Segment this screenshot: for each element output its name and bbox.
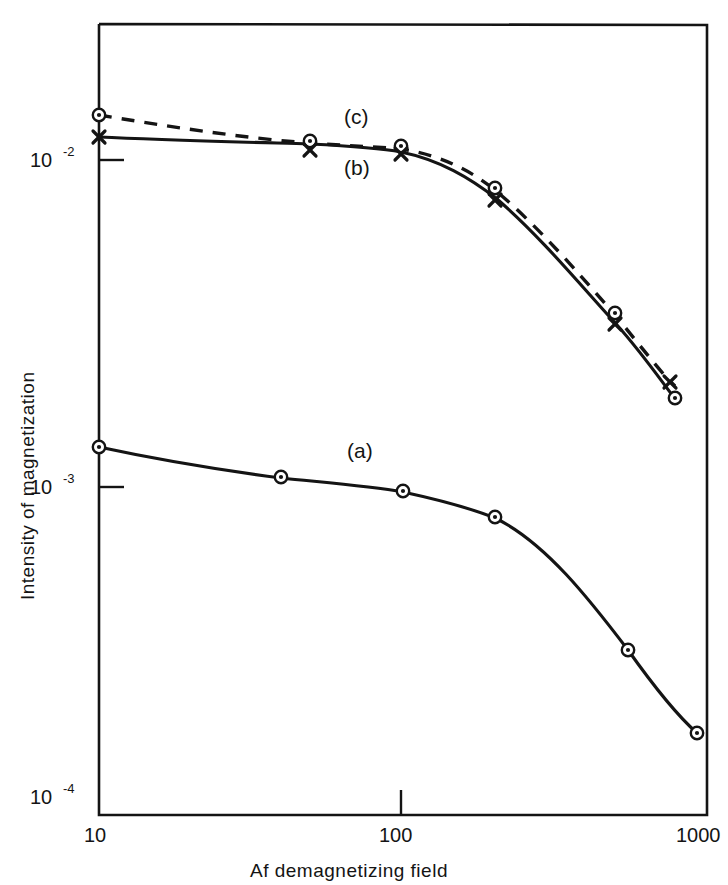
data-point-center [493,515,497,519]
x-tick-label-1000: 1000 [676,824,721,846]
data-point-center [97,113,101,117]
y-tick-mantissa: 10 [30,149,52,171]
y-tick-exponent: -2 [63,144,75,159]
curve-b-line [99,137,676,400]
data-point-center [626,648,630,652]
data-point-center [493,186,497,190]
curve-b-markers [93,131,676,388]
data-point-center [399,144,403,148]
curve-c-annotation: (c) [344,105,369,128]
data-point-center [673,396,677,400]
data-point-center [401,489,405,493]
curve-a-markers [93,441,703,739]
curve-endpoint-markers [669,392,681,404]
x-axis-title: Af demagnetizing field [250,860,448,881]
y-tick-mantissa: 10 [30,786,52,808]
curve-c-line [99,115,675,386]
y-tick-exponent: -4 [63,781,75,796]
data-point-center [695,731,699,735]
y-axis-ticks [99,160,124,487]
data-point-marker [664,376,676,388]
curve-b-annotation: (b) [344,156,370,179]
curve-a-annotation: (a) [347,439,373,462]
x-tick-label-100: 100 [379,824,412,846]
y-tick-label-1e-4: 10 -4 [30,781,75,808]
y-axis-title: Intensity of magnetization [17,372,38,600]
chart-figure: 10 -2 10 -3 10 -4 10 100 1000 Af demagne… [0,0,728,885]
data-point-center [97,445,101,449]
data-point-center [279,475,283,479]
data-point-center [613,311,617,315]
x-tick-label-10: 10 [84,824,106,846]
y-tick-exponent: -3 [63,471,75,486]
data-point-center [308,139,312,143]
y-tick-label-1e-2: 10 -2 [30,144,75,171]
